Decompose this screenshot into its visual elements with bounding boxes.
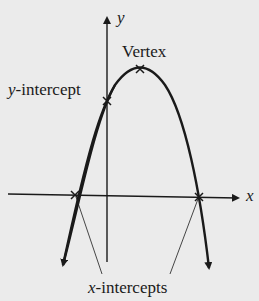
vertex-marker [136, 65, 144, 73]
vertex-label: Vertex [122, 43, 166, 60]
parabola-diagram: y x Vertex y-intercept x-intercepts [0, 0, 259, 301]
y-var: y [8, 80, 16, 99]
x-var: x [88, 278, 96, 297]
x-intercepts-text: -intercepts [96, 278, 168, 297]
x-intercept-pointer-left [76, 197, 102, 274]
x-axis-label: x [246, 187, 254, 204]
x-axis [8, 194, 238, 198]
y-intercept-text: -intercept [16, 80, 81, 99]
y-axis-label: y [117, 9, 125, 26]
x-intercepts-label: x-intercepts [88, 279, 167, 296]
x-intercept-pointer-right [170, 199, 198, 274]
point-markers [71, 65, 203, 201]
y-intercept-label: y-intercept [8, 81, 81, 98]
